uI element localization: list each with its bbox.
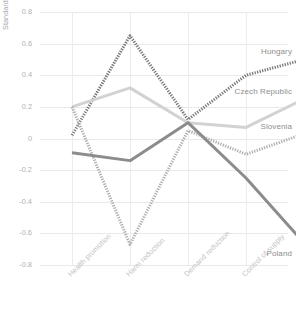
y-tick-label: -0.2 xyxy=(2,165,32,174)
y-tick-label: 0.2 xyxy=(2,102,32,111)
series-lines xyxy=(40,12,288,265)
series-label-hungary: Hungary xyxy=(261,47,292,56)
series-label-slovenia: Slovenia xyxy=(261,122,293,131)
y-tick-label: 0.8 xyxy=(2,7,32,16)
y-tick-label: 0.6 xyxy=(2,39,32,48)
line-chart: Standard score 0.80.60.40.20-0.2-0.4-0.6… xyxy=(0,0,296,330)
y-tick-label: 0 xyxy=(2,134,32,143)
series-label-poland: Poland xyxy=(266,249,292,258)
y-tick-label: 0.4 xyxy=(2,70,32,79)
series-label-czech-republic: Czech Republic xyxy=(235,87,292,96)
y-tick-label: -0.8 xyxy=(2,260,32,269)
y-tick-label: -0.6 xyxy=(2,228,32,237)
plot-area xyxy=(40,12,288,265)
y-tick-label: -0.4 xyxy=(2,197,32,206)
